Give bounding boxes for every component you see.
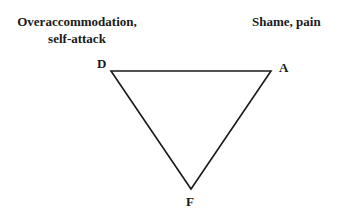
- triangle-diagram: [0, 0, 339, 217]
- vertex-f-label: F: [186, 194, 194, 210]
- triangle: [111, 71, 271, 189]
- vertex-a-label: A: [279, 60, 288, 76]
- vertex-d-label: D: [97, 56, 106, 72]
